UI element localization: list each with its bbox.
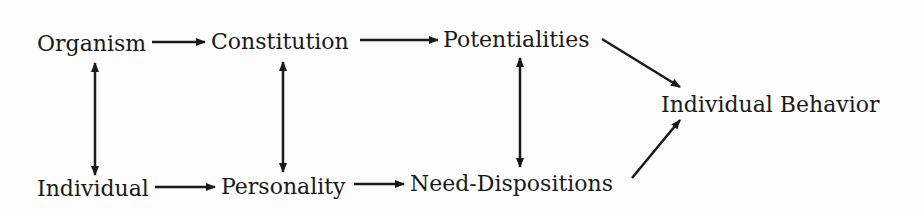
edge-needdispositions-behavior [632, 120, 680, 178]
node-organism: Organism [37, 33, 146, 55]
node-potentialities: Potentialities [443, 29, 589, 51]
node-individual-behavior: Individual Behavior [661, 94, 880, 116]
node-individual: Individual [37, 178, 149, 200]
edge-potentialities-behavior [602, 39, 680, 87]
node-constitution: Constitution [211, 31, 349, 53]
diagram-canvas: Organism Constitution Potentialities Ind… [0, 0, 924, 216]
node-need-dispositions: Need-Dispositions [410, 173, 613, 195]
node-personality: Personality [221, 176, 346, 198]
